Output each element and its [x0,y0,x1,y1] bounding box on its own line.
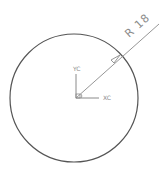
dimension-label: R 18 [122,11,152,40]
circle[interactable] [10,34,138,162]
dimension-arrowhead-icon [111,55,120,63]
wcs-axes: YC XC [72,65,111,101]
radius-dimension[interactable]: R 18 [76,11,159,98]
yc-label: YC [72,65,81,72]
origin-arc-icon [81,94,82,98]
cad-drawing: YC XC R 18 [0,0,166,175]
xc-label: XC [103,94,111,101]
